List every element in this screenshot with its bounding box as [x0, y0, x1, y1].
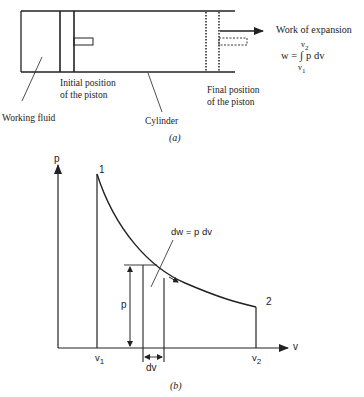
initial-position-label-1: Initial position	[60, 78, 116, 88]
pv-diagram: p v 1 2 p dv dw = p dv v1 v2 (b)	[54, 153, 298, 392]
cylinder-leader	[148, 73, 162, 112]
p-axis-label: p	[54, 153, 60, 164]
svg-text:w =: w =	[281, 50, 297, 61]
piston-cylinder-diagram: Work of expansion v2 w = ∫ p dv v1 Worki…	[2, 11, 352, 144]
v2-label: v2	[252, 352, 262, 366]
final-position-label-2: of the piston	[207, 97, 255, 107]
strip-height-label: p	[121, 299, 127, 310]
caption-a: (a)	[169, 132, 181, 144]
initial-position-label-2: of the piston	[60, 90, 108, 100]
point-2-label: 2	[266, 296, 272, 307]
v1-label: v1	[95, 352, 105, 366]
working-fluid-leader	[22, 57, 42, 101]
point-1-label: 1	[99, 164, 105, 175]
v-axis-label: v	[293, 341, 298, 352]
svg-text:p dv: p dv	[306, 50, 325, 61]
thermodynamics-figure: Work of expansion v2 w = ∫ p dv v1 Worki…	[0, 0, 364, 397]
svg-text:v1: v1	[298, 63, 306, 75]
expansion-curve	[97, 174, 256, 307]
caption-b: (b)	[170, 380, 182, 392]
cylinder-label: Cylinder	[145, 116, 179, 126]
work-of-expansion-label: Work of expansion	[276, 24, 352, 35]
final-position-label-1: Final position	[207, 85, 260, 95]
strip-width-label: dv	[146, 362, 157, 373]
dw-label: dw = p dv	[171, 226, 212, 237]
working-fluid-label: Working fluid	[2, 113, 56, 123]
initial-piston	[60, 11, 93, 72]
work-formula: v2 w = ∫ p dv v1	[281, 40, 325, 75]
svg-text:∫: ∫	[299, 49, 304, 62]
final-piston	[206, 12, 247, 71]
